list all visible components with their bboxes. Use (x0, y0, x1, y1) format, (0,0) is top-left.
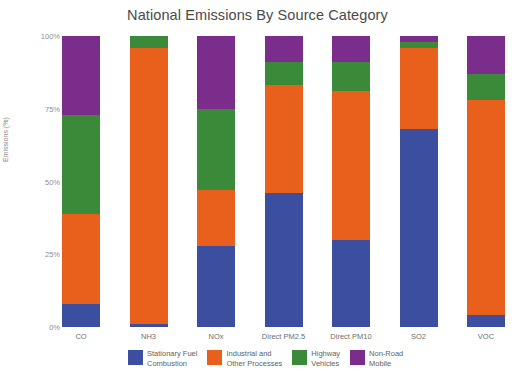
stacked-bar[interactable] (400, 36, 438, 327)
y-axis-tick-labels: 0%25%50%75%100% (26, 36, 60, 327)
bar-segment[interactable] (332, 62, 370, 91)
bar-segment[interactable] (467, 100, 505, 315)
y-axis-tick: 25% (26, 250, 60, 259)
bar-group-co[interactable]: CO (62, 36, 100, 327)
bar-group-so2[interactable]: SO2 (400, 36, 438, 327)
bar-segment[interactable] (467, 315, 505, 327)
bar-group-nox[interactable]: NOx (197, 36, 235, 327)
bar-series-group: CONH3NOxDirect PM2.5Direct PM10SO2VOC (62, 36, 505, 327)
y-axis-label: Emissions (%) (2, 82, 9, 162)
bar-segment[interactable] (62, 115, 100, 214)
x-axis-tick: Direct PM10 (318, 332, 384, 341)
legend-swatch-icon (292, 350, 307, 365)
bar-group-direct-pm2-5[interactable]: Direct PM2.5 (265, 36, 303, 327)
legend-swatch-icon (207, 350, 222, 365)
bar-group-nh3[interactable]: NH3 (130, 36, 168, 327)
y-axis-tick: 50% (26, 177, 60, 186)
chart-legend: Stationary Fuel CombustionIndustrial and… (128, 349, 508, 383)
x-axis-tick: NH3 (116, 332, 182, 341)
bar-segment[interactable] (332, 91, 370, 239)
bar-segment[interactable] (467, 36, 505, 74)
legend-label: Non-Road Mobile (369, 349, 403, 368)
x-axis-tick: Direct PM2.5 (251, 332, 317, 341)
legend-item[interactable]: Industrial and Other Processes (207, 349, 282, 368)
bar-segment[interactable] (332, 240, 370, 327)
y-axis-tick: 0% (26, 323, 60, 332)
bar-segment[interactable] (197, 190, 235, 245)
stacked-bar[interactable] (467, 36, 505, 327)
bar-segment[interactable] (197, 246, 235, 327)
legend-label: Stationary Fuel Combustion (147, 349, 197, 368)
stacked-bar[interactable] (265, 36, 303, 327)
bar-segment[interactable] (62, 304, 100, 327)
legend-item[interactable]: Non-Road Mobile (350, 349, 403, 368)
bar-segment[interactable] (197, 36, 235, 109)
y-axis-tick: 75% (26, 104, 60, 113)
bar-segment[interactable] (265, 193, 303, 327)
bar-segment[interactable] (62, 36, 100, 115)
x-axis-tick: NOx (183, 332, 249, 341)
legend-swatch-icon (350, 350, 365, 365)
x-axis-tick: CO (48, 332, 114, 341)
bar-segment[interactable] (197, 109, 235, 190)
chart-container: National Emissions By Source Category Em… (0, 0, 515, 387)
bar-segment[interactable] (62, 214, 100, 304)
stacked-bar[interactable] (332, 36, 370, 327)
bar-group-direct-pm10[interactable]: Direct PM10 (332, 36, 370, 327)
bar-segment[interactable] (400, 48, 438, 129)
bar-segment[interactable] (265, 62, 303, 85)
stacked-bar[interactable] (130, 36, 168, 327)
legend-item[interactable]: Highway Vehicles (292, 349, 340, 368)
plot-area: CONH3NOxDirect PM2.5Direct PM10SO2VOC (62, 36, 505, 327)
legend-swatch-icon (128, 350, 143, 365)
bar-group-voc[interactable]: VOC (467, 36, 505, 327)
bar-segment[interactable] (130, 48, 168, 324)
bar-segment[interactable] (400, 129, 438, 327)
bar-segment[interactable] (265, 36, 303, 62)
legend-label: Industrial and Other Processes (226, 349, 282, 368)
x-axis-tick: VOC (453, 332, 515, 341)
stacked-bar[interactable] (62, 36, 100, 327)
bar-segment[interactable] (332, 36, 370, 62)
page-title: National Emissions By Source Category (0, 7, 515, 23)
stacked-bar[interactable] (197, 36, 235, 327)
y-axis-tick: 100% (26, 32, 60, 41)
bar-segment[interactable] (467, 74, 505, 100)
x-axis-tick: SO2 (386, 332, 452, 341)
legend-label: Highway Vehicles (311, 349, 340, 368)
legend-item[interactable]: Stationary Fuel Combustion (128, 349, 197, 368)
bar-segment[interactable] (130, 324, 168, 327)
bar-segment[interactable] (130, 36, 168, 48)
bar-segment[interactable] (265, 85, 303, 193)
